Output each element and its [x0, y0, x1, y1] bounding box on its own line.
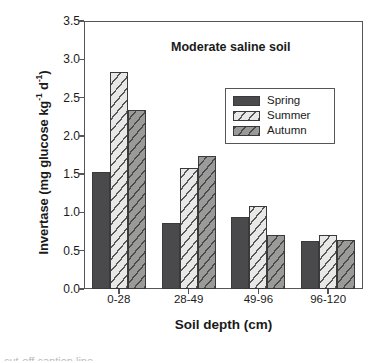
y-axis-tick-mark: [79, 135, 84, 136]
y-axis-title-sup2: -1: [34, 75, 44, 82]
bar-autumn-0-28: [128, 110, 146, 289]
bar-spring-96-120: [301, 241, 319, 289]
bar-summer-28-49: [180, 168, 198, 289]
y-axis-tick-label: 3.0: [50, 52, 80, 66]
y-axis-tick-label: 1.0: [50, 205, 80, 219]
legend: Spring Summer Autumn: [225, 88, 335, 144]
legend-label-autumn: Autumn: [267, 125, 307, 137]
cut-off-caption: cut-off caption line: [4, 356, 304, 361]
y-axis-tick-label: 3.5: [50, 14, 80, 28]
legend-item-summer: Summer: [233, 109, 327, 122]
legend-item-autumn: Autumn: [233, 124, 327, 137]
chart-figure: Invertase (mg glucose kg-1 d-1) 0.00.51.…: [0, 0, 381, 363]
bar-spring-49-96: [231, 217, 249, 289]
x-axis-tick-label: 0-28: [84, 293, 154, 305]
y-axis-tick-labels: 0.00.51.01.52.02.53.03.5: [48, 0, 80, 363]
y-axis-tick-label: 2.5: [50, 91, 80, 105]
legend-label-spring: Spring: [267, 95, 300, 107]
x-axis-title: Soil depth (cm): [84, 317, 363, 332]
legend-label-summer: Summer: [267, 110, 310, 122]
y-axis-tick-mark: [79, 173, 84, 174]
bar-summer-0-28: [110, 72, 128, 289]
y-axis-tick-mark: [79, 288, 84, 289]
bar-spring-0-28: [92, 172, 110, 289]
y-axis-tick-mark: [79, 59, 84, 60]
legend-swatch-spring: [233, 96, 260, 106]
plot-area: [84, 21, 363, 289]
x-axis-tick-label: 96-120: [293, 293, 363, 305]
legend-swatch-summer: [233, 111, 260, 121]
y-axis-title-sup1: -1: [34, 93, 44, 100]
y-axis-tick-mark: [79, 20, 84, 21]
x-axis-tick-label: 49-96: [223, 293, 293, 305]
bar-spring-28-49: [162, 223, 180, 289]
x-axis-tick-label: 28-49: [154, 293, 224, 305]
y-axis-tick-mark: [79, 250, 84, 251]
y-axis-tick-mark: [79, 97, 84, 98]
bar-summer-96-120: [319, 235, 337, 289]
legend-swatch-autumn: [233, 126, 260, 136]
y-axis-tick-label: 0.5: [50, 244, 80, 258]
bar-autumn-28-49: [198, 156, 216, 289]
y-axis-tick-label: 1.5: [50, 167, 80, 181]
panel-title: Moderate saline soil: [171, 40, 290, 54]
legend-item-spring: Spring: [233, 94, 327, 107]
bar-summer-49-96: [249, 206, 267, 289]
y-axis-tick-mark: [79, 212, 84, 213]
y-axis-tick-label: 2.0: [50, 129, 80, 143]
bar-autumn-96-120: [337, 240, 355, 289]
y-axis-tick-label: 0.0: [50, 282, 80, 296]
bar-autumn-49-96: [267, 235, 285, 289]
